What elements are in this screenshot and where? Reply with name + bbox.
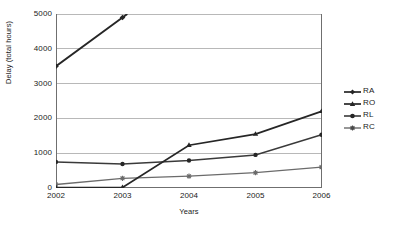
x-axis-title: Years: [56, 207, 322, 216]
chart-container: Delay (total hours) 5000 4000 3000 2000 …: [0, 0, 395, 230]
x-tick-label: 2004: [169, 191, 209, 200]
triangle-marker-icon: [344, 96, 361, 108]
legend-label: RL: [361, 110, 373, 119]
series-rl-markers: [56, 133, 322, 167]
series-rl: [56, 133, 322, 167]
y-tick-label: 1000: [12, 149, 52, 157]
legend-item-ro[interactable]: RO: [344, 96, 392, 108]
y-tick-label: 3000: [12, 80, 52, 88]
series-rc: [56, 165, 322, 188]
x-axis-tick-labels: 2002 2003 2004 2005 2006: [56, 191, 322, 205]
series-rc-markers: [56, 165, 322, 188]
y-axis-tick-labels: 5000 4000 3000 2000 1000 0: [8, 14, 52, 188]
legend-label: RO: [361, 98, 375, 107]
circle-marker-icon: [344, 108, 361, 120]
legend-label: RA: [361, 86, 374, 95]
x-tick-label: 2006: [302, 191, 342, 200]
chart-legend: RA RO RL: [344, 84, 392, 132]
y-tick-label: 4000: [12, 45, 52, 53]
diamond-marker-icon: [344, 84, 361, 96]
chart-plot-svg: [56, 14, 322, 188]
asterisk-marker-icon: [344, 120, 361, 132]
legend-item-rc[interactable]: RC: [344, 120, 392, 132]
series-ra: [56, 14, 127, 69]
x-tick-label: 2003: [103, 191, 143, 200]
plot-area: [56, 14, 322, 188]
gridlines: [56, 49, 322, 153]
legend-item-ra[interactable]: RA: [344, 84, 392, 96]
x-tick-label: 2005: [236, 191, 276, 200]
y-tick-label: 2000: [12, 114, 52, 122]
legend-item-rl[interactable]: RL: [344, 108, 392, 120]
y-tick-label: 5000: [12, 10, 52, 18]
x-tick-label: 2002: [36, 191, 76, 200]
legend-label: RC: [361, 122, 375, 131]
